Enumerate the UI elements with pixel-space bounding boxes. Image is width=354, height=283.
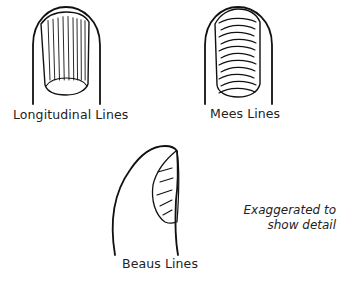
band-line xyxy=(221,25,255,30)
band-line xyxy=(221,81,256,86)
finger-mees xyxy=(205,7,272,104)
groove-line xyxy=(163,210,172,215)
nail-lunula xyxy=(46,78,87,86)
longitudinal-ridges xyxy=(48,17,85,81)
exaggeration-note: Exaggerated to show detail xyxy=(243,203,336,233)
ridge-line xyxy=(73,18,74,80)
label-beaus-lines: Beaus Lines xyxy=(122,256,198,271)
ridge-line xyxy=(63,17,64,80)
band-line xyxy=(221,39,256,44)
finger-longitudinal xyxy=(33,7,100,104)
band-line xyxy=(221,67,255,72)
band-line xyxy=(219,46,255,51)
ridge-line xyxy=(48,21,50,81)
groove-line xyxy=(160,178,173,182)
finger-outline xyxy=(205,7,272,104)
band-line xyxy=(219,60,256,65)
finger-outline xyxy=(113,146,178,255)
band-line xyxy=(219,18,256,23)
band-line xyxy=(219,74,254,79)
band-line xyxy=(221,53,254,58)
band-line xyxy=(219,88,255,93)
beaus-grooves xyxy=(157,168,173,215)
ridge-line xyxy=(53,19,55,80)
label-mees-lines: Mees Lines xyxy=(210,106,280,121)
ridge-line xyxy=(68,17,69,81)
mees-bands xyxy=(219,18,256,93)
groove-line xyxy=(160,200,172,206)
label-longitudinal-lines: Longitudinal Lines xyxy=(13,107,128,122)
finger-beaus xyxy=(113,146,179,255)
note-line-1: Exaggerated to xyxy=(243,203,336,218)
nail-illustration xyxy=(0,0,354,283)
groove-line xyxy=(157,190,172,195)
band-line xyxy=(219,32,254,37)
ridge-line xyxy=(58,18,60,80)
ridge-line xyxy=(77,19,78,80)
note-line-2: show detail xyxy=(243,218,336,233)
nail-outline xyxy=(153,151,177,223)
